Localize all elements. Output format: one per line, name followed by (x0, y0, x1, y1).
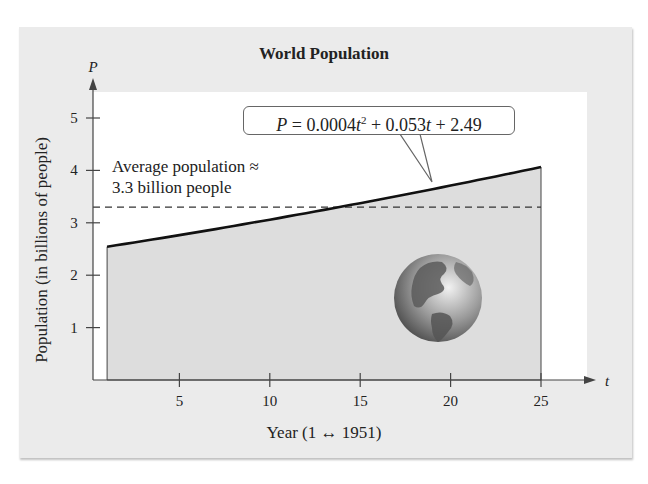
y-tick-label: 4 (70, 162, 78, 179)
y-axis-arrow-icon (89, 78, 97, 90)
x-tick-label: 20 (443, 393, 458, 410)
x-tick-label: 10 (262, 393, 277, 410)
y-axis-name: P (88, 59, 97, 76)
globe-icon (394, 254, 482, 342)
x-tick-label: 25 (534, 393, 549, 410)
x-axis-label: Year (1 ↔ 1951) (0, 423, 648, 443)
x-axis-name: t (605, 373, 609, 390)
equation-callout: P = 0.0004t2 + 0.053t + 2.49 (243, 106, 515, 135)
y-tick-label: 5 (70, 110, 78, 127)
x-tick-label: 5 (176, 393, 184, 410)
y-tick-label: 1 (70, 319, 78, 336)
y-tick-label: 2 (70, 267, 78, 284)
x-axis-arrow-icon (584, 376, 596, 384)
average-annotation: Average population ≈ 3.3 billion people (112, 156, 259, 198)
eq-part: + 2.49 (431, 115, 482, 135)
eq-var-p: P (276, 115, 287, 135)
eq-part: = 0.0004 (287, 115, 356, 135)
x-tick-label: 15 (353, 393, 368, 410)
y-axis-label: Population (in billions of people) (32, 137, 52, 363)
y-tick-label: 3 (70, 214, 78, 231)
eq-part: + 0.053 (366, 115, 426, 135)
